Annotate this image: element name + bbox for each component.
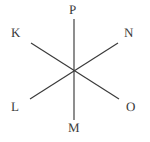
point-label-m: M (68, 121, 80, 134)
point-label-l: L (11, 100, 19, 113)
point-label-o: O (126, 100, 135, 113)
point-label-n: N (124, 26, 133, 39)
point-label-k: K (11, 26, 20, 39)
point-label-p: P (69, 3, 76, 16)
geometry-figure: P K N L O M (0, 0, 150, 142)
